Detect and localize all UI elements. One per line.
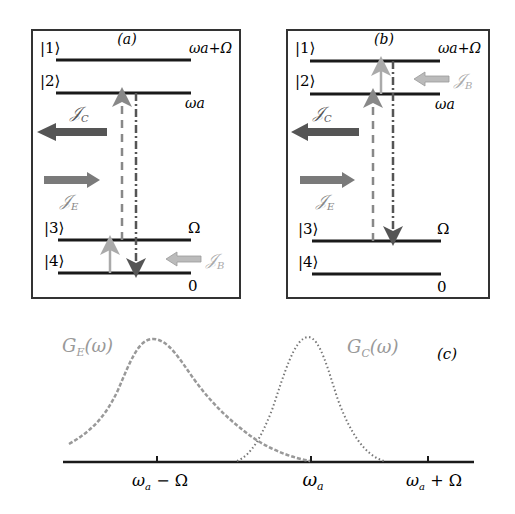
ket-2: |2⟩ (295, 72, 315, 90)
energy-4: 0 (437, 278, 447, 296)
ge-curve (69, 339, 310, 461)
ge-label: GE(ω) (62, 335, 113, 359)
energy-level-diagram: (a) |1⟩ |2⟩ |3⟩ |4⟩ ωa+Ω ωa Ω 0 𝒥C 𝒥E 𝒥B (0, 0, 515, 514)
panel-b: (b) |1⟩ |2⟩ |3⟩ |4⟩ ωa+Ω ωa Ω 0 𝒥C 𝒥E 𝒥B (287, 30, 489, 298)
ket-4: |4⟩ (298, 253, 318, 271)
ket-1: |1⟩ (40, 39, 60, 57)
jb-label: 𝒥B (205, 250, 224, 271)
je-label: 𝒥E (59, 191, 79, 212)
ket-3: |3⟩ (298, 220, 318, 238)
panel-a: (a) |1⟩ |2⟩ |3⟩ |4⟩ ωa+Ω ωa Ω 0 𝒥C 𝒥E 𝒥B (32, 30, 240, 298)
energy-3: Ω (188, 219, 200, 237)
energy-3: Ω (437, 220, 449, 238)
ket-3: |3⟩ (44, 219, 64, 237)
energy-1: ωa+Ω (438, 40, 481, 56)
jc-label: 𝒥C (69, 103, 89, 124)
je-arrow (44, 172, 100, 188)
ket-4: |4⟩ (44, 252, 64, 270)
jb-arrow (414, 72, 449, 86)
ket-2: |2⟩ (40, 72, 60, 90)
gc-label: GC(ω) (347, 336, 399, 360)
jb-label: 𝒥B (453, 70, 472, 91)
tick-label-wa: ωa (302, 469, 323, 493)
tick-label-wa-plus-omega: ωa + Ω (406, 471, 462, 492)
jb-arrow (166, 252, 201, 266)
panel-c: GE(ω) GC(ω) (c) ωa − Ω ωa ωa + Ω (62, 335, 474, 493)
jc-label: 𝒥C (312, 103, 332, 124)
energy-4: 0 (188, 277, 198, 295)
je-arrow (300, 172, 355, 188)
jc-arrow (291, 123, 359, 141)
energy-2: ωa (185, 95, 205, 111)
jc-arrow (37, 123, 107, 141)
energy-1: ωa+Ω (189, 40, 232, 56)
je-label: 𝒥E (315, 191, 335, 212)
panel-c-label: (c) (437, 345, 457, 363)
panel-b-label: (b) (374, 31, 394, 47)
energy-2: ωa (435, 96, 455, 112)
panel-a-label: (a) (117, 31, 136, 47)
ket-1: |1⟩ (295, 39, 315, 57)
tick-label-wa-minus-omega: ωa − Ω (132, 471, 188, 492)
